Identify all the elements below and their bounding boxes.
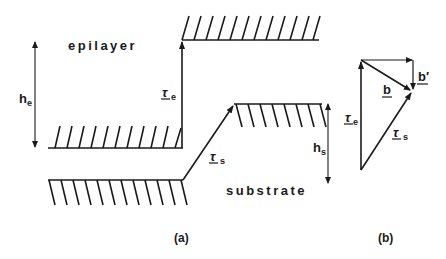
panel-a: epilayer substrate h e h s τ e τ s (a) xyxy=(19,16,328,245)
h-e-label-subscript: e xyxy=(27,98,32,108)
tau-s-label-a-subscript: s xyxy=(220,156,225,166)
tau-s-label-b-symbol: τ xyxy=(393,125,399,140)
epilayer-label: epilayer xyxy=(68,38,137,53)
h-s-label-subscript: s xyxy=(321,147,326,157)
epilayer-upper-surface xyxy=(182,16,320,40)
tau-e-label-b-subscript: e xyxy=(353,117,358,127)
substrate-upper-surface xyxy=(234,104,326,127)
substrate-label: substrate xyxy=(226,183,307,198)
tau-s-label-b-subscript: s xyxy=(403,132,408,142)
epilayer-lower-surface xyxy=(48,126,183,148)
b-prime-label: b′ xyxy=(418,69,429,84)
tau-s-label-a-symbol: τ xyxy=(210,149,216,164)
substrate-lower-surface xyxy=(48,180,187,205)
dislocation-step-diagram: epilayer substrate h e h s τ e τ s (a) b xyxy=(0,0,446,259)
tau-s-vector-a xyxy=(183,106,233,180)
tau-e-label-a-subscript: e xyxy=(171,92,176,102)
h-s-label-symbol: h xyxy=(313,140,321,155)
tau-e-label-a-symbol: τ xyxy=(162,85,168,100)
panel-b: b b′ τ e τ s (b) xyxy=(344,60,429,245)
panel-a-caption: (a) xyxy=(174,231,189,245)
h-e-label-symbol: h xyxy=(19,91,27,106)
tau-e-label-b-symbol: τ xyxy=(345,110,351,125)
panel-b-caption: (b) xyxy=(378,231,393,245)
b-label: b xyxy=(383,82,391,97)
